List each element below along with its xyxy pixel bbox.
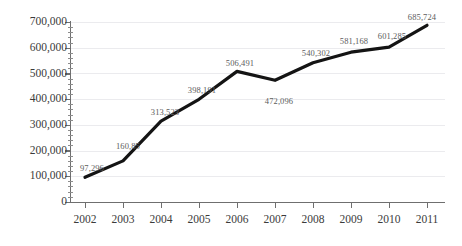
y-tick-label-200000: 200,000	[30, 145, 67, 156]
data-label-2002: 97,296	[62, 163, 122, 173]
line-chart: 700,000 600,000 500,000 400,000 300,000 …	[0, 0, 462, 246]
data-label-2010: 601,285	[362, 31, 422, 41]
data-label-2011: 685,724	[392, 12, 452, 22]
x-tick-label-2011: 2011	[405, 213, 449, 225]
data-label-2005: 398,191	[172, 85, 232, 95]
y-tick-label-600000: 600,000	[30, 42, 67, 53]
y-tick-label-500000: 500,000	[30, 68, 67, 79]
y-tick-label-700000: 700,000	[30, 16, 67, 27]
data-label-2006: 506,491	[210, 58, 270, 68]
data-label-2003: 160,85	[98, 141, 158, 151]
data-label-2008: 540,302	[286, 48, 346, 58]
data-label-2004: 313,523	[135, 107, 195, 117]
y-tick-label-400000: 400,000	[30, 93, 67, 104]
y-tick-label-300000: 300,000	[30, 119, 67, 130]
data-label-2007: 472,096	[249, 96, 309, 106]
y-tick-label-0: 0	[61, 196, 67, 207]
